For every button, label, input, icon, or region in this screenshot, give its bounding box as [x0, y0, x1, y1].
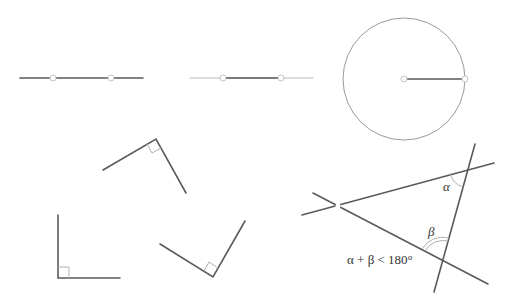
alpha-label: α [443, 179, 451, 194]
right-angle-3 [160, 221, 245, 277]
point-a [50, 75, 56, 81]
right-angle-1 [103, 139, 186, 193]
angle-arms [58, 215, 120, 278]
circle-from-radius [343, 18, 468, 140]
euclid-postulates-diagram: α β α + β < 180° [0, 0, 510, 307]
line-upper [302, 163, 494, 215]
parallel-postulate: α β α + β < 180° [302, 144, 494, 292]
point-b [108, 75, 114, 81]
beta-arc-outer-icon [422, 237, 449, 249]
beta-label: β [427, 224, 435, 239]
segment-endpoint-b [278, 75, 284, 81]
right-angle-2 [58, 215, 120, 278]
angle-arms [103, 139, 186, 193]
circle-center [401, 76, 407, 82]
segment-endpoint-a [220, 75, 226, 81]
right-angle-marker-icon [204, 262, 218, 271]
right-angle-marker-icon [58, 267, 69, 278]
radius-endpoint [462, 76, 468, 82]
transversal [434, 144, 475, 292]
angle-arms [160, 221, 245, 277]
inequality-label: α + β < 180° [347, 252, 413, 267]
line-through-two-points [20, 75, 143, 81]
right-angles-equal [58, 139, 245, 278]
segment-extended [190, 75, 313, 81]
intersection-gap [336, 204, 341, 209]
